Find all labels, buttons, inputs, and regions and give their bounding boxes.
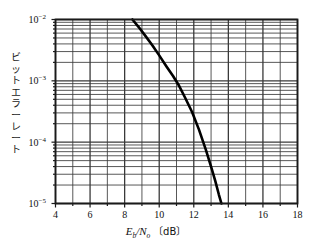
x-tick-label-0: 4 bbox=[53, 209, 58, 220]
x-tick-label-3: 10 bbox=[154, 209, 164, 220]
x-tick-label-7: 18 bbox=[293, 209, 303, 220]
y-tick-label-1: 10−3 bbox=[29, 74, 46, 86]
x-tick-label-4: 12 bbox=[189, 209, 199, 220]
x-axis-label: Eb/No 〔dB〕 bbox=[0, 223, 312, 240]
x-axis-label-n-sub: o bbox=[147, 231, 151, 240]
x-tick-label-1: 6 bbox=[88, 209, 93, 220]
y-tick-label-0: 10−2 bbox=[29, 13, 46, 25]
x-tick-label-5: 14 bbox=[223, 209, 233, 220]
y-axis-tick-labels: 10−210−310−410−5 bbox=[0, 0, 54, 246]
x-tick-label-2: 8 bbox=[122, 209, 127, 220]
x-tick-label-6: 16 bbox=[258, 209, 268, 220]
x-axis-label-n: N bbox=[139, 225, 146, 237]
y-tick-label-3: 10−5 bbox=[29, 197, 46, 209]
x-axis-unit: 〔dB〕 bbox=[153, 226, 186, 237]
ber-chart-figure: ビ ッ ト エ ラ ー レ ー ト 10−210−310−410−5 46810… bbox=[0, 0, 312, 246]
y-tick-label-2: 10−4 bbox=[29, 136, 46, 148]
